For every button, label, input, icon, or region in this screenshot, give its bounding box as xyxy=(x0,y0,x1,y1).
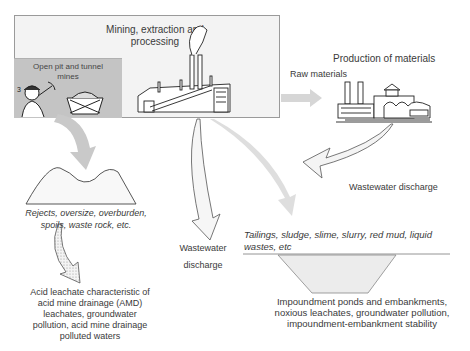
production-label: Production of materials xyxy=(333,53,435,65)
tailings-line2: wastes, etc xyxy=(244,241,464,253)
impoundment-line3: impoundment-embankment stability xyxy=(262,318,462,329)
spoils-label: Rejects, oversize, overburden, spoils, w… xyxy=(16,207,156,231)
processing-to-tailings-arrow xyxy=(210,119,296,216)
wastewater-discharge-right-arrow xyxy=(303,124,393,178)
acid-line3: leachates, groundwater xyxy=(20,309,160,320)
wastewater-center-line1: Wastewater xyxy=(168,240,238,257)
tailings-line1: Tailings, sludge, slime, slurry, red mud… xyxy=(244,229,464,241)
spoils-line2: spoils, waste rock, etc. xyxy=(16,219,156,231)
wastewater-discharge-center-arrow xyxy=(191,119,220,240)
production-factory-icon xyxy=(336,82,432,122)
spoil-heap-shape xyxy=(26,168,136,204)
raw-materials-arrow xyxy=(281,89,322,107)
acid-leachate-arrow xyxy=(54,224,80,283)
svg-text:3: 3 xyxy=(17,86,21,93)
acid-leachate-label: Acid leachate characteristic of acid min… xyxy=(20,287,160,342)
acid-line1: Acid leachate characteristic of xyxy=(20,287,160,298)
acid-line4: pollution, acid mine drainage xyxy=(20,320,160,331)
processing-plant-icon xyxy=(138,26,230,112)
spoils-line1: Rejects, oversize, overburden, xyxy=(16,207,156,219)
wastewater-discharge-center-label: Wastewater discharge xyxy=(168,240,238,274)
wastewater-discharge-right-label: Wastewater discharge xyxy=(349,181,438,193)
impoundment-line1: Impoundment ponds and embankments, xyxy=(262,296,462,307)
tailings-label: Tailings, sludge, slime, slurry, red mud… xyxy=(244,229,464,253)
wastewater-center-line2: discharge xyxy=(168,257,238,274)
impoundment-label: Impoundment ponds and embankments, noxio… xyxy=(262,296,462,329)
mine-cart-icon xyxy=(67,92,103,114)
mines-to-spoils-arrow xyxy=(54,114,96,170)
acid-line5: polluted waters xyxy=(20,331,160,342)
acid-line2: acid mine drainage (AMD) xyxy=(20,298,160,309)
impoundment-pond-shape xyxy=(278,255,396,293)
impoundment-line2: noxious leachates, groundwater pollution… xyxy=(262,307,462,318)
miner-icon: 3 xyxy=(17,82,55,117)
raw-materials-label: Raw materials xyxy=(290,68,347,80)
